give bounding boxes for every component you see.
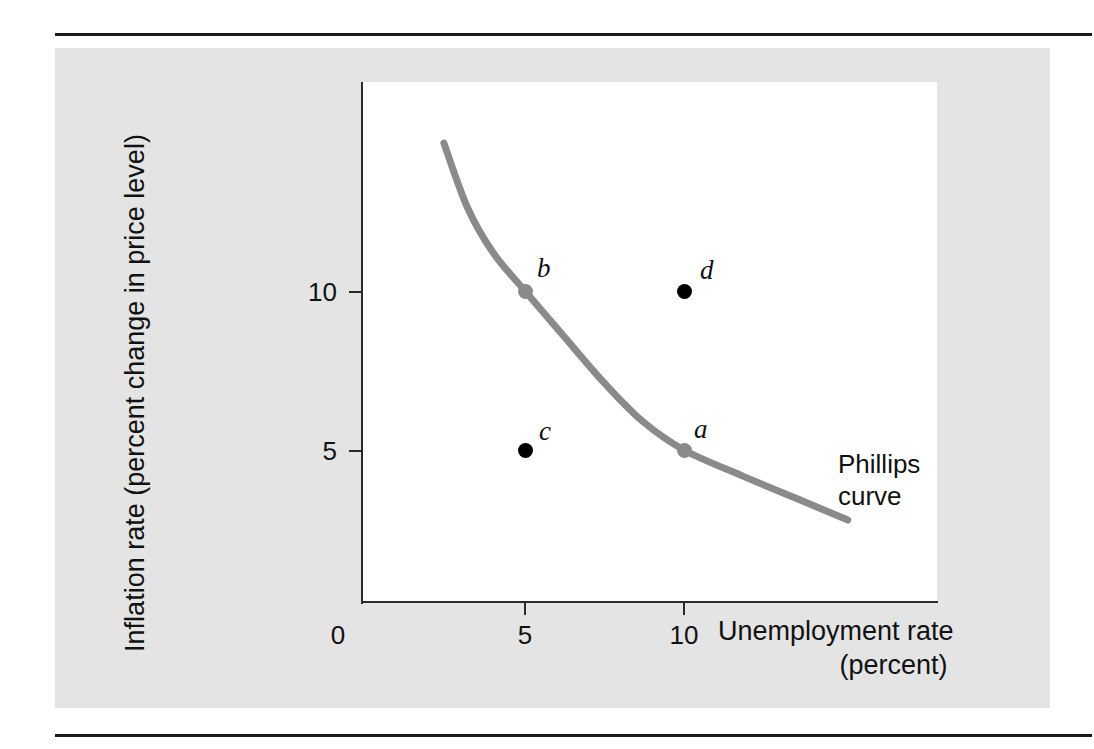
phillips-curve-path (444, 143, 848, 520)
phillips-curve-svg (0, 0, 1094, 749)
data-point-label-a: a (694, 416, 708, 443)
data-point-label-b: b (537, 255, 551, 282)
data-point-label-c: c (539, 418, 551, 445)
figure-container: Inflation rate (percent change in price … (0, 0, 1094, 749)
data-point-d (677, 284, 692, 299)
data-point-b (518, 284, 533, 299)
data-point-a (677, 443, 692, 458)
data-point-label-d: d (700, 257, 714, 284)
data-point-c (518, 443, 533, 458)
